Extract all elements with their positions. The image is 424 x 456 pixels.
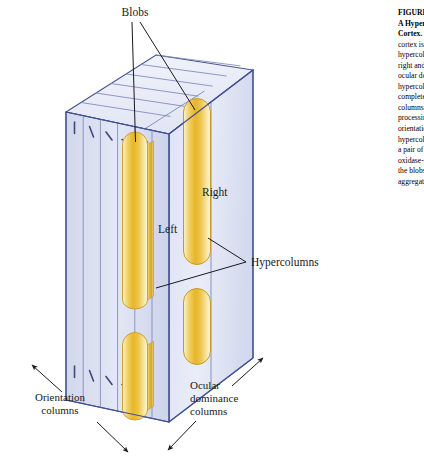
caption-line: aggregate color. <box>398 177 424 188</box>
ocular-dominance-label-line3: columns <box>190 405 227 417</box>
caption-line: orientation. Each <box>398 124 424 135</box>
caption-line: complete set of <box>398 92 424 103</box>
cortical-block-diagram: Blobs Right Left Hypercolumns Orientatio… <box>0 0 424 456</box>
caption-line: ocular dominance <box>398 71 424 82</box>
caption-line: hypercolumn also has <box>398 135 424 146</box>
orientation-arrow-lower <box>97 422 128 452</box>
figure-root: Blobs Right Left Hypercolumns Orientatio… <box>0 0 424 456</box>
caption-line: right and left ocular <box>398 61 424 72</box>
orientation-arrow-upper <box>32 365 62 392</box>
cortical-block <box>66 55 253 422</box>
caption-line: processing a single <box>398 113 424 124</box>
caption-line: Cortex. <box>398 29 424 40</box>
hypercolumns-label: Hypercolumns <box>251 256 319 269</box>
blob-lower-left <box>123 332 148 420</box>
caption-line: A Hypercolumn in the <box>398 19 424 30</box>
left-label: Left <box>158 223 178 235</box>
ocular-dominance-label-line2: dominance <box>190 392 238 404</box>
blob-upper-right <box>184 99 211 265</box>
caption-line: cortex is organized into <box>398 40 424 51</box>
blob-lower-right <box>184 289 211 365</box>
blob-lower-left-side <box>148 342 154 411</box>
caption-line: columns, each <box>398 103 424 114</box>
ocular-dominance-label-line1: Ocular <box>190 379 220 391</box>
right-label: Right <box>202 186 228 199</box>
caption-line: hypercolumn contains a <box>398 82 424 93</box>
figure-caption-column: FIGURE 27-9 A Hypercolumn in the Cortex.… <box>398 8 424 308</box>
caption-line: oxidase-rich regions <box>398 156 424 167</box>
blobs-label: Blobs <box>122 6 149 18</box>
caption-line: FIGURE 27-9 <box>398 8 424 19</box>
orientation-columns-label-line1: Orientation <box>35 391 86 403</box>
caption-line: hypercolumns, each of <box>398 50 424 61</box>
caption-line: the blobs process <box>398 166 424 177</box>
ocular-arrow-lower <box>168 421 196 450</box>
orientation-columns-label-line2: columns <box>41 404 78 416</box>
caption-line: a pair of blobs, <box>398 145 424 156</box>
blob-upper-left <box>123 132 148 309</box>
blob-upper-left-side <box>148 141 154 300</box>
